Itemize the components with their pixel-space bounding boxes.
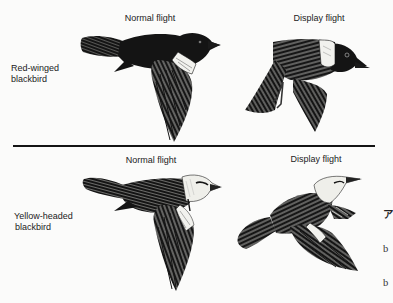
margin-text-line: b [383,243,393,254]
species-name-line1: Yellow-headed [14,211,73,222]
column-heading-normal-flight-bottom: Normal flight [126,155,177,165]
species-name-line2: blackbird [11,74,59,85]
row-label-red-winged-blackbird: Red-winged blackbird [11,63,59,84]
bird-icon [80,30,225,145]
section-divider [13,145,375,147]
yellow-headed-blackbird-normal-flight-illustration [82,173,227,293]
red-winged-blackbird-normal-flight-illustration [80,30,225,145]
red-winged-blackbird-display-flight-illustration [243,38,373,133]
margin-text-line: ア [383,209,393,220]
bird-icon [243,38,373,133]
bird-icon [236,175,371,275]
column-heading-display-flight-top: Display flight [293,13,344,23]
species-name-line1: Red-winged [11,63,59,74]
column-heading-normal-flight-top: Normal flight [125,13,176,23]
margin-text-line: b [383,277,393,288]
column-heading-display-flight-bottom: Display flight [290,154,341,164]
species-name-line2: blackbird [14,222,73,233]
bird-icon [82,173,227,293]
cropped-margin-text: ア b b N t ( r [383,186,393,303]
row-label-yellow-headed-blackbird: Yellow-headed blackbird [14,211,73,232]
blackbird-flight-figure: Normal flight Display flight Red-winged … [0,0,393,303]
yellow-headed-blackbird-display-flight-illustration [236,175,371,275]
